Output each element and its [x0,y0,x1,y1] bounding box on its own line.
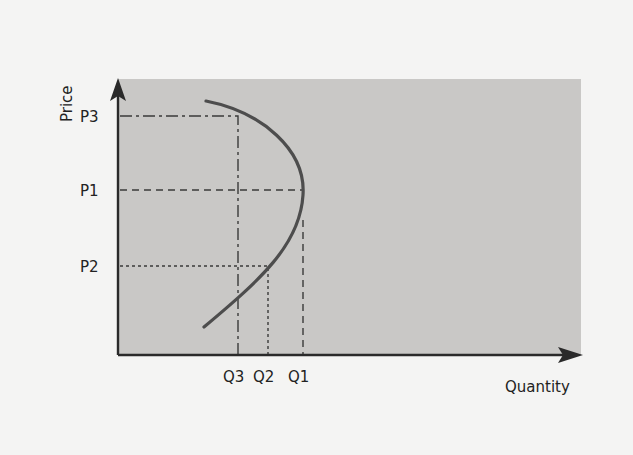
tick-q1: Q1 [288,368,309,386]
tick-p3: P3 [80,108,99,126]
tick-q2: Q2 [253,368,274,386]
x-axis-label: Quantity [505,378,570,396]
tick-p2: P2 [80,258,99,276]
plot-area [118,79,581,355]
y-axis-label: Price [58,85,76,122]
tick-q3: Q3 [223,368,244,386]
backward-bending-supply-diagram: Price P3 P1 P2 Q3 Q2 Q1 Quantity [0,0,633,455]
tick-p1: P1 [80,182,99,200]
